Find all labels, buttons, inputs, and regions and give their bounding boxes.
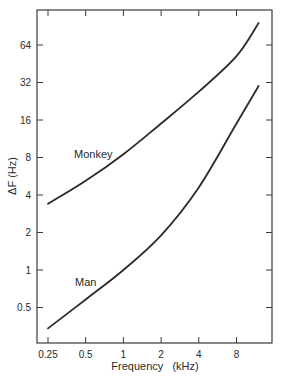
x-tick-label: 4 bbox=[196, 349, 202, 360]
y-tick-label: 2 bbox=[25, 227, 31, 238]
chart-figure: 0.250.51248 0.51248163264 Monkey Man Fre… bbox=[0, 0, 281, 381]
x-tick-label: 0.25 bbox=[38, 349, 58, 360]
x-axis-label: Frequency (kHz) bbox=[111, 360, 198, 372]
plot-frame bbox=[37, 10, 272, 343]
series-line-monkey bbox=[48, 23, 259, 204]
y-tick-label: 16 bbox=[20, 115, 32, 126]
x-tick-label: 1 bbox=[121, 349, 127, 360]
y-tick-label: 0.5 bbox=[17, 302, 31, 313]
x-tick-label: 2 bbox=[158, 349, 164, 360]
series-label-man: Man bbox=[75, 276, 96, 288]
y-tick-label: 8 bbox=[25, 152, 31, 163]
y-axis-label: ΔF (Hz) bbox=[6, 157, 18, 195]
x-tick-label: 0.5 bbox=[79, 349, 93, 360]
y-axis-ticks: 0.51248163264 bbox=[17, 40, 272, 314]
x-axis-ticks: 0.250.51248 bbox=[38, 10, 239, 360]
x-tick-label: 8 bbox=[234, 349, 240, 360]
y-tick-label: 4 bbox=[25, 190, 31, 201]
y-tick-label: 1 bbox=[25, 265, 31, 276]
y-tick-label: 32 bbox=[20, 77, 32, 88]
series-label-monkey: Monkey bbox=[74, 148, 113, 160]
y-tick-label: 64 bbox=[20, 40, 32, 51]
series-line-man bbox=[48, 86, 259, 328]
